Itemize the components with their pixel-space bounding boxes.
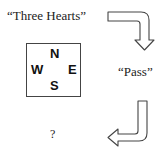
arrows-layer [0, 0, 165, 153]
arrow-east-to-south-icon [108, 101, 147, 146]
arrow-north-to-east-icon [108, 12, 154, 50]
